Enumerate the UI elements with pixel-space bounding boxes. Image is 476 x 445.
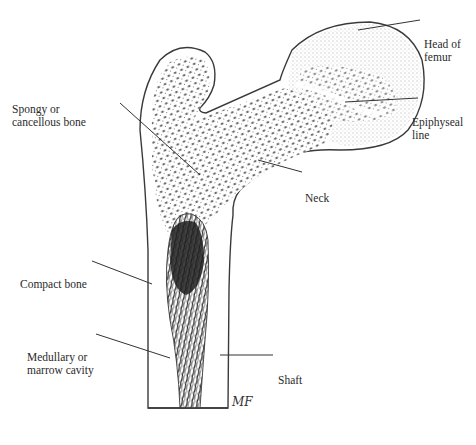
- label-epiphyseal-line: Epiphysealline: [412, 90, 463, 168]
- label-compact-bone: Compact bone: [20, 252, 87, 317]
- label-spongy-bone: Spongy orcancellous bone: [12, 77, 86, 155]
- label-head-of-femur: Head offemur: [424, 12, 461, 90]
- label-shaft: Shaft: [278, 348, 302, 413]
- label-medullary-cavity: Medullary ormarrow cavity: [27, 325, 94, 403]
- label-neck: Neck: [305, 166, 329, 231]
- artist-signature: MF: [231, 395, 253, 409]
- femur-diagram: MF Head offemur Spongy orcancellous bone…: [0, 0, 476, 445]
